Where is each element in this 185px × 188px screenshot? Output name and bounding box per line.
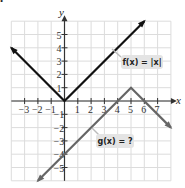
y-tick-label: −1 [54,109,65,120]
x-tick-label: 5 [128,104,133,115]
x-tick-label: 4 [115,104,120,115]
y-tick-label: −2 [54,123,65,134]
x-tick-label: 6 [141,104,146,115]
y-axis-label: y [58,6,64,18]
x-tick-label: 2 [88,104,93,115]
y-tick-label: −3 [54,136,65,147]
x-tick-label: −3 [19,104,30,115]
chart-canvas: −3−2−11234567−5−4−3−2−112345 f(x) = |x|g… [0,0,185,188]
x-axis-label: x [175,94,181,106]
f-label: f(x) = |x| [122,58,161,67]
y-tick-label: 4 [57,43,62,54]
x-tick-label: −2 [32,104,43,115]
g-label: g(x) = ? [97,137,132,146]
y-tick-label: 3 [57,56,62,67]
y-tick-label: 5 [57,30,62,41]
y-tick-label: 1 [57,83,62,94]
y-tick-label: 2 [57,69,62,80]
x-tick-label: 1 [75,104,80,115]
axes [11,15,177,181]
